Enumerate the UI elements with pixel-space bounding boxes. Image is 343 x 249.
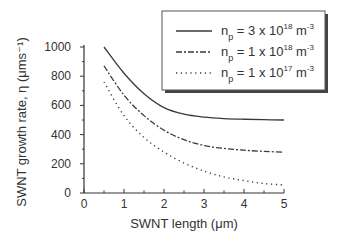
series-line-dotted [104, 82, 284, 185]
y-tick-label: 800 [51, 69, 71, 83]
y-tick-label: 200 [51, 157, 71, 171]
x-tick-label: 3 [201, 197, 208, 211]
x-tick-label: 1 [121, 197, 128, 211]
y-tick-label: 600 [51, 98, 71, 112]
x-axis-title: SWNT length (μm) [130, 216, 238, 231]
x-tick-label: 4 [241, 197, 248, 211]
line-chart: 01234502004006008001000 SWNT length (μm)… [0, 0, 343, 249]
legend: np = 3 x 1018 m-3np = 1 x 1018 m-3np = 1… [162, 11, 328, 93]
y-tick-label: 1000 [44, 40, 71, 54]
x-tick-label: 0 [81, 197, 88, 211]
y-axis-title: SWNT growth rate, η (μms⁻¹) [14, 37, 29, 207]
x-tick-label: 2 [161, 197, 168, 211]
x-tick-label: 5 [281, 197, 288, 211]
y-tick-label: 0 [64, 186, 71, 200]
y-tick-label: 400 [51, 128, 71, 142]
